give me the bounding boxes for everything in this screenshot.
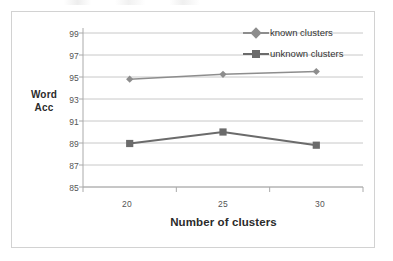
data-point (313, 142, 320, 149)
legend-entry-unknown-clusters[interactable]: unknown clusters (243, 48, 343, 59)
series-layer (126, 68, 320, 149)
legend-entry-known-clusters[interactable]: known clusters (243, 27, 333, 38)
data-point (126, 140, 133, 147)
legend-marker-diamond-icon (243, 28, 269, 38)
data-point (219, 128, 226, 135)
series-known-clusters (126, 68, 320, 83)
plot-area (0, 0, 393, 261)
legend-marker-square-icon (243, 49, 269, 59)
legend-label-known-clusters: known clusters (270, 27, 333, 38)
legend-label-unknown-clusters: unknown clusters (270, 48, 343, 59)
line-chart: Word Acc 99 97 95 93 91 89 87 85 20 25 3… (0, 0, 393, 261)
series-unknown-clusters (126, 128, 320, 148)
data-point (313, 68, 320, 75)
